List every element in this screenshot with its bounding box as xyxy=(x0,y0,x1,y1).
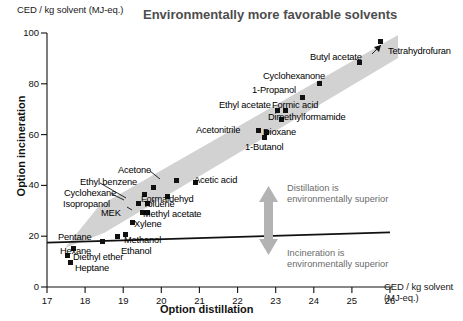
data-point-marker xyxy=(256,128,261,133)
data-point-label: MEK xyxy=(101,208,121,218)
x-tick-label: 23 xyxy=(264,295,288,306)
y-axis-unit-label: CED / kg solvent (MJ-eq.) xyxy=(17,4,123,15)
data-point-label: Ethyl acetate xyxy=(219,100,271,110)
data-point-label: Dioxane xyxy=(263,127,296,137)
data-point-marker xyxy=(378,39,383,44)
y-axis-ticks xyxy=(41,33,47,287)
y-tick-label: 80 xyxy=(15,78,39,89)
x-tick-label: 20 xyxy=(149,295,173,306)
data-point-label: Cyclohexane xyxy=(64,188,116,198)
data-point-label: Acetic acid xyxy=(194,175,237,185)
data-point-marker xyxy=(115,234,120,239)
y-tick-label: 0 xyxy=(15,281,39,292)
data-point-label: Isopropanol xyxy=(63,199,110,209)
data-point-label: 1-Butanol xyxy=(245,142,283,152)
data-point-marker xyxy=(100,239,105,244)
chart-title: Environmentally more favorable solvents xyxy=(143,7,397,22)
data-point-label: Methanol xyxy=(124,235,161,245)
y-tick-label: 100 xyxy=(15,27,39,38)
data-point-marker xyxy=(151,185,156,190)
y-tick-label: 60 xyxy=(15,129,39,140)
data-point-label: Tetrahydrofuran xyxy=(388,46,451,56)
data-point-label: Xylene xyxy=(134,219,162,229)
data-point-label: Pentane xyxy=(58,232,92,242)
data-point-label: Acetone xyxy=(118,165,151,175)
data-point-label: Formaldehyd xyxy=(141,194,194,204)
x-tick-label: 24 xyxy=(302,295,326,306)
annotation-incineration-line2: environmentally superior xyxy=(287,259,388,270)
data-point-label: Formic acid xyxy=(272,100,318,110)
x-tick-label: 25 xyxy=(340,295,364,306)
annotation-distillation-line1: Distillation is xyxy=(287,183,388,194)
x-axis-unit-label-line1: CED / kg solvent xyxy=(384,281,453,292)
x-tick-label: 21 xyxy=(187,295,211,306)
data-point-label: Ethyl benzene xyxy=(80,177,137,187)
x-tick-label: 26 xyxy=(378,295,402,306)
annotation-distillation-superior: Distillation is environmentally superior xyxy=(287,183,388,205)
annotation-incineration-line1: Incineration is xyxy=(287,248,388,259)
data-point-label: Methyl acetate xyxy=(143,209,201,219)
x-tick-label: 22 xyxy=(226,295,250,306)
data-point-label: 1-Propanol xyxy=(252,85,296,95)
y-tick-label: 40 xyxy=(15,179,39,190)
y-tick-label: 20 xyxy=(15,230,39,241)
superiority-double-arrow xyxy=(259,186,278,255)
data-point-label: Hexane xyxy=(60,246,91,256)
data-point-label: Butyl acetate xyxy=(310,52,362,62)
data-point-label: Cyclohexanone xyxy=(263,71,325,81)
x-tick-label: 18 xyxy=(73,295,97,306)
data-point-label: Acetonitrile xyxy=(196,125,240,135)
x-axis-ticks xyxy=(47,287,390,293)
annotation-incineration-superior: Incineration is environmentally superior xyxy=(287,248,388,270)
data-point-label: Ethanol xyxy=(121,246,151,256)
x-tick-label: 17 xyxy=(35,295,59,306)
x-tick-label: 19 xyxy=(111,295,135,306)
data-point-label: Heptane xyxy=(75,263,109,273)
data-point-marker xyxy=(317,81,322,86)
annotation-distillation-line2: environmentally superior xyxy=(287,194,388,205)
data-point-marker xyxy=(174,178,179,183)
data-point-label: Dimethylformamide xyxy=(268,112,346,122)
